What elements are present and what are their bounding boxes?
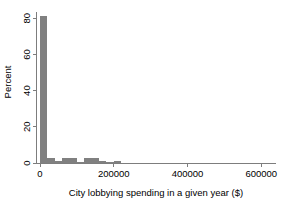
- histogram-bar: [114, 161, 121, 163]
- histogram-bar: [106, 162, 113, 163]
- histogram-plot-area: 020406080 0200000400000600000 Percent Ci…: [0, 0, 282, 202]
- x-axis-ticks: 0200000400000600000: [37, 164, 277, 180]
- axes-group: [37, 12, 277, 164]
- x-axis-title: City lobbying spending in a given year (…: [69, 187, 243, 198]
- y-tick-label: 20: [21, 122, 32, 133]
- histogram-bar: [84, 158, 91, 163]
- histogram-bar: [99, 161, 106, 163]
- bars-group: [40, 16, 173, 164]
- histogram-bar: [55, 161, 62, 163]
- x-tick-label: 200000: [98, 168, 130, 179]
- histogram-bar: [62, 158, 69, 163]
- y-axis-title: Percent: [2, 65, 13, 98]
- y-tick-label: 40: [21, 85, 32, 96]
- y-tick-label: 60: [21, 49, 32, 60]
- x-tick-label: 400000: [172, 168, 204, 179]
- histogram-bar: [40, 16, 47, 163]
- histogram-bar: [77, 162, 84, 163]
- y-axis-ticks: 020406080: [21, 13, 36, 166]
- x-tick-label: 0: [37, 168, 42, 179]
- histogram-chart: 020406080 0200000400000600000 Percent Ci…: [0, 0, 282, 202]
- histogram-bar: [70, 158, 77, 163]
- y-tick-label: 80: [21, 13, 32, 24]
- histogram-bar: [47, 158, 54, 163]
- histogram-bar: [92, 158, 99, 163]
- x-tick-label: 600000: [245, 168, 277, 179]
- y-tick-label: 0: [21, 160, 32, 165]
